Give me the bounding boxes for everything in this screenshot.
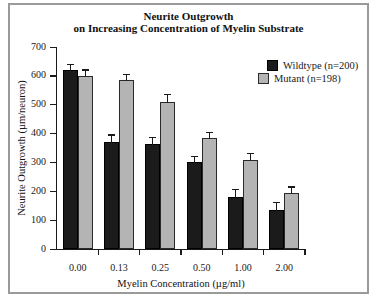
error-bar-line	[194, 157, 195, 164]
x-tick	[222, 249, 223, 255]
error-bar-line	[276, 203, 277, 211]
error-bar-line	[70, 64, 71, 71]
error-bar-line	[209, 132, 210, 139]
error-bar-cap	[206, 132, 213, 133]
legend-marker-mutant	[258, 73, 269, 84]
x-tick-label: 0.13	[99, 262, 139, 274]
y-tick	[50, 133, 56, 134]
error-bar-cap	[164, 94, 171, 95]
error-bar-cap	[123, 74, 130, 75]
figure: Neurite Outgrowth on Increasing Concentr…	[0, 0, 373, 306]
bar-mutant-2	[160, 102, 175, 249]
error-bar-cap	[288, 186, 295, 187]
bar-mutant-3	[202, 138, 217, 249]
x-tick-label: 1.00	[223, 262, 263, 274]
error-bar-cap	[232, 189, 239, 190]
legend-label: Wildtype (n=200)	[283, 60, 358, 71]
y-tick	[50, 104, 56, 105]
y-tick	[50, 191, 56, 192]
error-bar-cap	[247, 153, 254, 154]
y-tick	[50, 249, 56, 250]
y-tick-label: 100	[14, 214, 46, 226]
y-tick	[50, 75, 56, 76]
y-tick-label: 700	[14, 41, 46, 53]
bar-wildtype-3	[187, 162, 202, 249]
x-tick-label: 0.00	[58, 262, 98, 274]
bar-mutant-0	[78, 76, 93, 249]
error-bar-cap	[273, 202, 280, 203]
error-bar-cap	[67, 64, 74, 65]
x-tick-label: 2.00	[264, 262, 304, 274]
y-tick-label: 500	[14, 98, 46, 110]
bar-wildtype-2	[145, 144, 160, 249]
y-tick	[50, 47, 56, 48]
x-tick	[139, 249, 140, 255]
x-tick	[98, 249, 99, 255]
y-tick	[50, 162, 56, 163]
x-tick-label: 0.50	[182, 262, 222, 274]
bar-wildtype-5	[269, 210, 284, 249]
bar-wildtype-4	[228, 197, 243, 249]
error-bar-cap	[149, 137, 156, 138]
error-bar-line	[126, 74, 127, 81]
x-tick	[180, 249, 181, 255]
y-tick-label: 600	[14, 69, 46, 81]
plot-area: 01002003004005006007000.000.130.250.501.…	[0, 0, 373, 306]
y-tick-label: 300	[14, 156, 46, 168]
bar-wildtype-0	[63, 70, 78, 249]
error-bar-line	[235, 190, 236, 198]
error-bar-line	[85, 70, 86, 77]
error-bar-line	[111, 135, 112, 143]
bar-mutant-1	[119, 80, 134, 249]
error-bar-cap	[82, 69, 89, 70]
error-bar-line	[167, 95, 168, 103]
error-bar-line	[291, 187, 292, 194]
bar-mutant-4	[243, 160, 258, 249]
y-tick-label: 0	[14, 243, 46, 255]
x-tick	[263, 249, 264, 255]
error-bar-cap	[191, 156, 198, 157]
legend-marker-wildtype	[267, 60, 278, 71]
x-tick-label: 0.25	[140, 262, 180, 274]
legend-item: Wildtype (n=200)	[267, 60, 358, 71]
y-tick-label: 400	[14, 127, 46, 139]
x-tick	[304, 249, 305, 255]
error-bar-line	[152, 138, 153, 145]
y-tick-label: 200	[14, 185, 46, 197]
error-bar-cap	[108, 134, 115, 135]
error-bar-line	[250, 154, 251, 161]
bar-wildtype-1	[104, 142, 119, 249]
legend-label: Mutant (n=198)	[274, 73, 341, 84]
bar-mutant-5	[284, 193, 299, 249]
legend-item: Mutant (n=198)	[258, 73, 341, 84]
y-tick	[50, 220, 56, 221]
